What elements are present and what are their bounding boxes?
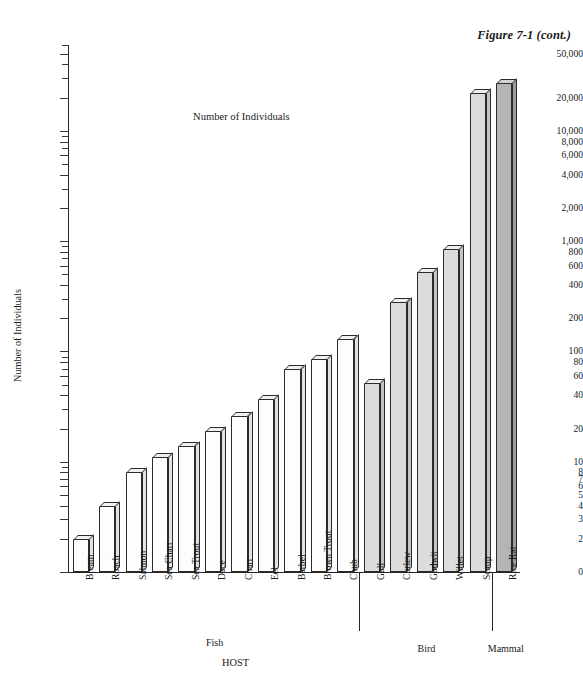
y-tick-label: 20,000	[527, 93, 583, 103]
y-tick-label: 2	[527, 534, 583, 544]
y-tick-minor	[62, 467, 69, 468]
y-tick	[60, 395, 69, 396]
y-tick-label: 80	[527, 357, 583, 367]
y-tick	[60, 479, 69, 480]
chart-title: Number of Individuals	[193, 111, 290, 122]
y-tick	[60, 572, 69, 573]
y-tick-label: 100	[527, 346, 583, 356]
y-tick-minor	[62, 45, 69, 46]
group-label: Fish	[175, 637, 255, 648]
y-tick	[60, 351, 69, 352]
y-tick-label: 40	[527, 390, 583, 400]
bar-face	[284, 369, 300, 573]
x-tick-label: Sea Trout	[191, 543, 201, 580]
x-tick-label: Curlew	[402, 552, 412, 580]
y-tick	[60, 131, 69, 132]
y-tick-label: 20	[527, 424, 583, 434]
y-tick-minor	[62, 385, 69, 386]
y-tick-label: 800	[527, 247, 583, 257]
x-tick-label: Godwit	[429, 551, 439, 580]
bar-side	[221, 426, 226, 572]
y-tick	[60, 285, 69, 286]
x-tick-label: Eel	[270, 567, 280, 580]
y-tick-label: 10	[527, 457, 583, 467]
bar-side	[354, 334, 359, 572]
y-tick	[60, 252, 69, 253]
x-tick-label: Salmon	[138, 551, 148, 580]
y-tick-minor	[62, 274, 69, 275]
x-tick-label: Barbel	[297, 554, 307, 580]
y-tick-minor	[62, 299, 69, 300]
bar-side	[301, 364, 306, 573]
bar	[337, 339, 353, 572]
y-tick-label: 8,000	[527, 137, 583, 147]
bar-face	[258, 399, 274, 572]
y-tick	[60, 362, 69, 363]
bar-face	[337, 339, 353, 572]
y-tick-minor	[62, 357, 69, 358]
y-tick-minor	[62, 189, 69, 190]
bar-side	[459, 244, 464, 572]
y-axis-line	[68, 45, 69, 573]
bar-side	[380, 378, 385, 572]
bar	[258, 399, 274, 572]
bar	[496, 83, 512, 572]
bar	[443, 249, 459, 572]
y-tick-label: 400	[527, 280, 583, 290]
y-tick	[60, 519, 69, 520]
y-tick	[60, 175, 69, 176]
bar-side	[486, 88, 491, 572]
y-tick-label: 600	[527, 261, 583, 271]
bar-chart: Number of Individuals Number of Individu…	[0, 0, 583, 676]
y-tick-label: 50,000	[527, 49, 583, 59]
bar-face	[205, 431, 221, 572]
y-axis-title: Number of Individuals	[12, 256, 23, 416]
x-tick-label: Charr	[244, 558, 254, 580]
bar	[417, 272, 433, 572]
bar-side	[407, 297, 412, 572]
y-tick	[60, 142, 69, 143]
bar-face	[231, 416, 247, 572]
x-tick-label: Chub	[349, 559, 359, 580]
y-tick	[60, 429, 69, 430]
y-tick	[60, 241, 69, 242]
bar	[470, 93, 486, 572]
y-tick	[60, 506, 69, 507]
y-tick-label: 0	[527, 567, 583, 577]
y-tick-minor	[62, 409, 69, 410]
bar	[390, 302, 406, 572]
bar-side	[433, 267, 438, 572]
x-tick-label: Willet	[455, 556, 465, 580]
x-tick-label: Rice Rat	[508, 547, 518, 580]
y-tick	[60, 462, 69, 463]
x-tick-label: Bream	[85, 554, 95, 580]
x-tick-label: Dace	[217, 560, 227, 580]
y-tick	[60, 486, 69, 487]
bar	[364, 383, 380, 572]
bar-face	[470, 93, 486, 572]
y-tick-label: 5	[527, 490, 583, 500]
y-tick	[60, 98, 69, 99]
y-tick	[60, 318, 69, 319]
y-tick	[60, 539, 69, 540]
y-tick-label: 6,000	[527, 150, 583, 160]
group-label: Bird	[386, 643, 466, 654]
bar-face	[390, 302, 406, 572]
y-tick	[60, 54, 69, 55]
y-tick-label: 2,000	[527, 203, 583, 213]
x-tick-label: Sea Charr	[164, 542, 174, 580]
bar	[231, 416, 247, 572]
y-tick	[60, 208, 69, 209]
y-tick-minor	[62, 258, 69, 259]
x-tick-label: Gull	[376, 563, 386, 580]
bar	[284, 369, 300, 573]
bar-face	[496, 83, 512, 572]
group-label: Mammal	[466, 643, 546, 654]
y-tick-minor	[62, 64, 69, 65]
y-tick-minor	[62, 369, 69, 370]
x-tick-label: Scaup	[482, 557, 492, 580]
group-separator	[492, 573, 493, 631]
x-tick-label: Brown Trout	[323, 531, 333, 580]
y-tick-minor	[62, 164, 69, 165]
bar-face	[443, 249, 459, 572]
